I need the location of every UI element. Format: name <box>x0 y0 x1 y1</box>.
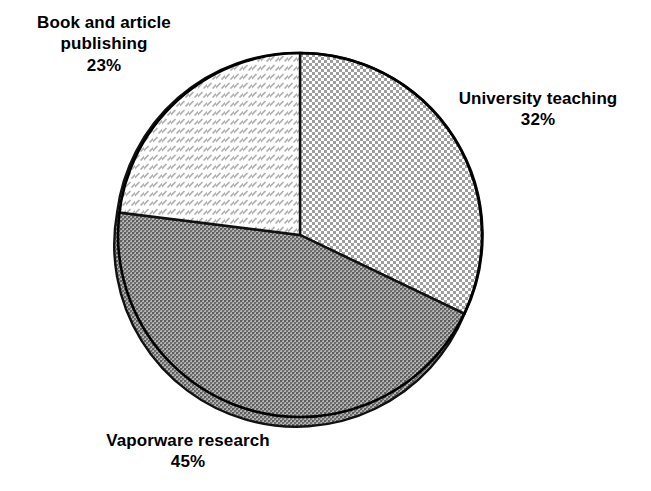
slice-label-vaporware-research: Vaporware research 45% <box>82 430 294 473</box>
slice-label-name: Vaporware research <box>82 430 294 451</box>
slice-label-university-teaching: University teaching 32% <box>440 88 636 131</box>
pie-slice-book-and-article-publishing[interactable] <box>117 53 300 235</box>
slice-label-name-line1: Book and article <box>14 12 194 33</box>
slice-label-book-and-article-publishing: Book and article publishing 23% <box>14 12 194 76</box>
slice-label-value: 23% <box>14 55 194 76</box>
slice-label-value: 45% <box>82 451 294 472</box>
slice-label-value: 32% <box>440 109 636 130</box>
slice-label-name: University teaching <box>440 88 636 109</box>
pie-chart-figure: Book and article publishing 23% Universi… <box>0 0 651 491</box>
slice-label-name-line2: publishing <box>14 33 194 54</box>
